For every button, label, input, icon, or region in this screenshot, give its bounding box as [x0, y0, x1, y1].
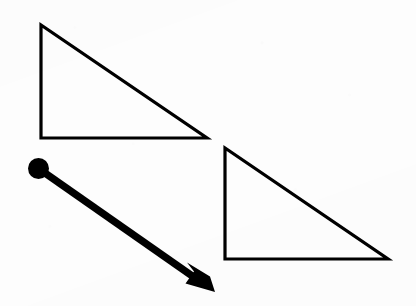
translation-vector [28, 158, 215, 292]
preimage-triangle [41, 25, 207, 138]
diagram-canvas [0, 0, 416, 306]
vector-shaft [39, 169, 199, 281]
vector-origin-dot [28, 158, 49, 179]
translation-figure [0, 0, 416, 306]
image-triangle [225, 148, 388, 259]
